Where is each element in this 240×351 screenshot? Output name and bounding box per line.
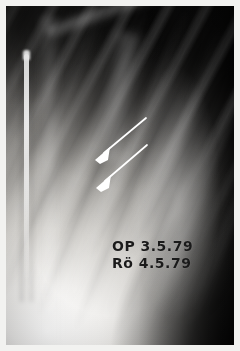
radiograph-figure: OP 3.5.79 Rö 4.5.79 (0, 0, 240, 351)
upper-marker-arrow (95, 118, 146, 164)
operation-date-annotation: OP 3.5.79 (112, 238, 193, 254)
arrow-annotation-overlay (6, 6, 234, 345)
lower-marker-arrow (96, 145, 147, 192)
radiograph-date-annotation: Rö 4.5.79 (112, 255, 191, 271)
radiograph-image: OP 3.5.79 Rö 4.5.79 (6, 6, 234, 345)
